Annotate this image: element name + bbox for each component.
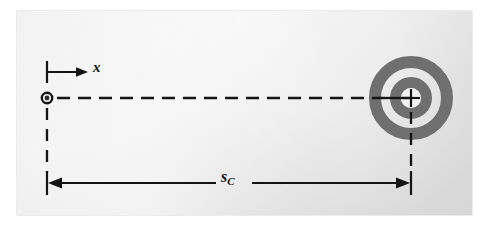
distance-label-sc: sC: [221, 169, 235, 187]
diagram-canvas: [0, 0, 488, 232]
distance-label-subscript: C: [227, 175, 234, 187]
dimension-arrowhead-left: [48, 178, 62, 189]
x-axis-arrowhead: [76, 67, 88, 77]
dimension-arrowhead-right: [396, 178, 410, 189]
particle-core-dot: [45, 96, 50, 101]
particle-marker: [42, 93, 52, 103]
x-axis-label: x: [93, 60, 101, 75]
x-axis-indicator: [47, 61, 88, 83]
figure-root: x sC: [0, 0, 488, 232]
